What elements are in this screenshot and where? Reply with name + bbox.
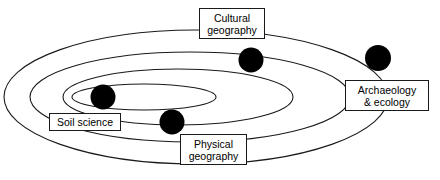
diagram-canvas: Cultural geography Archaeology & ecology…: [0, 0, 440, 180]
archaeology-ecology-node[interactable]: [365, 45, 391, 71]
label-cultural-geography-line2: geography: [207, 24, 257, 36]
label-box-soil-science[interactable]: Soil science: [49, 113, 121, 131]
cultural-geography-node[interactable]: [239, 48, 264, 73]
label-archaeology-ecology-line1: Archaeology: [358, 84, 416, 96]
label-physical-geography-line1: Physical: [194, 138, 233, 150]
label-box-archaeology-ecology[interactable]: Archaeology & ecology: [345, 80, 429, 111]
label-soil-science-line1: Soil science: [57, 116, 113, 128]
label-archaeology-ecology-line2: & ecology: [364, 96, 410, 108]
label-physical-geography-line2: geography: [189, 150, 239, 162]
physical-geography-node[interactable]: [160, 110, 185, 135]
label-box-physical-geography[interactable]: Physical geography: [180, 134, 247, 165]
soil-science-node[interactable]: [91, 85, 116, 110]
label-box-cultural-geography[interactable]: Cultural geography: [199, 8, 265, 39]
label-cultural-geography-line1: Cultural: [214, 12, 250, 24]
